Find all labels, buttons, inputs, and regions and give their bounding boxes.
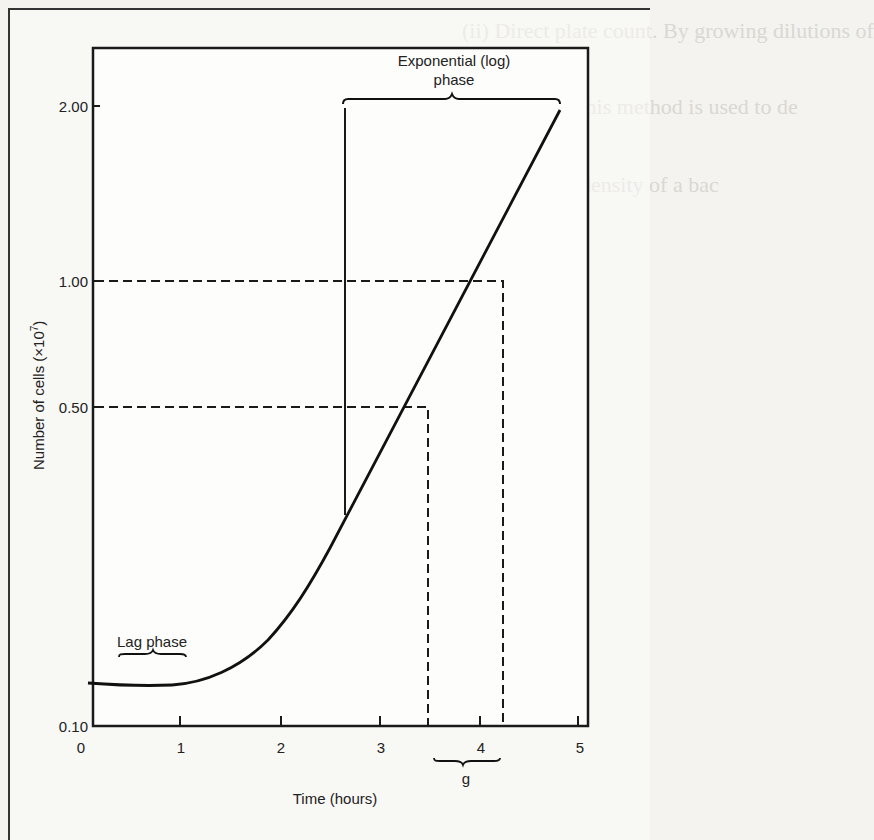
svg-text:Number of cells (×107): Number of cells (×107) (29, 321, 47, 470)
y-tick-labels: 2.00 1.00 0.50 0.10 (59, 98, 88, 735)
x-tick-label: 5 (576, 739, 584, 756)
exponential-phase-label-2: phase (434, 71, 475, 88)
y-axis-title: Number of cells (×107) (29, 321, 47, 470)
lag-phase-label: Lag phase (117, 633, 187, 650)
y-tick-label: 2.00 (59, 98, 88, 115)
exponential-phase-label: Exponential (log) (398, 52, 511, 69)
x-tick-label: 1 (177, 739, 185, 756)
plot-area (93, 48, 588, 726)
x-axis-title: Time (hours) (293, 790, 377, 807)
x-tick-labels: 0 1 2 3 4 5 (77, 739, 584, 756)
y-tick-label: 1.00 (59, 273, 88, 290)
x-tick-label: 2 (277, 739, 285, 756)
generation-time-brace (434, 758, 500, 765)
y-tick-label: 0.50 (59, 399, 88, 416)
y-tick-label: 0.10 (59, 718, 88, 735)
x-tick-label: 4 (477, 739, 485, 756)
generation-time-label: g (462, 770, 470, 787)
x-tick-label: 0 (77, 739, 85, 756)
x-tick-label: 3 (377, 739, 385, 756)
